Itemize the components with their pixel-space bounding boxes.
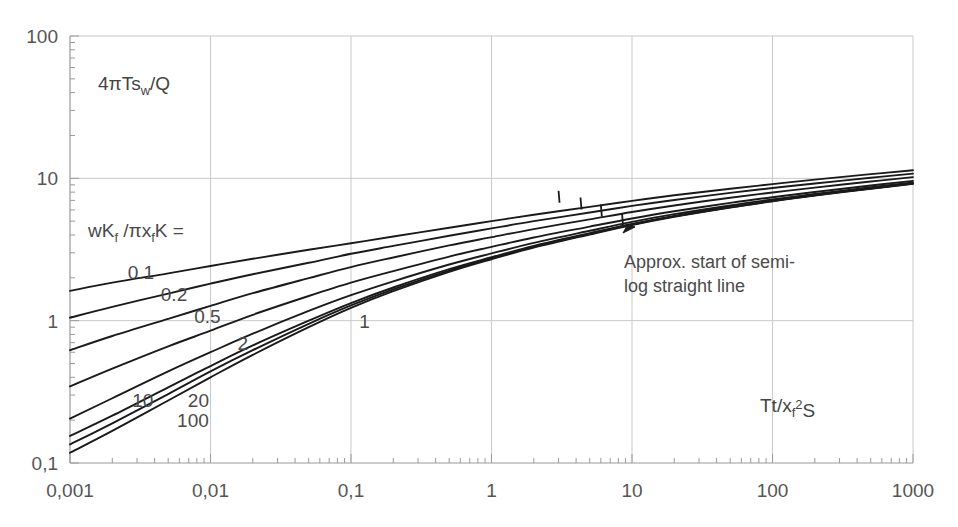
curve-label-100: 100 — [177, 410, 209, 431]
semilog-start-marker — [601, 204, 602, 216]
y-tick-label: 100 — [26, 26, 58, 47]
curve-label-1: 1 — [359, 311, 370, 332]
semilog-start-marker — [581, 197, 582, 209]
annotation-line-1: Approx. start of semi- — [624, 252, 795, 272]
curve-label-2: 2 — [238, 333, 249, 354]
x-tick-label: 10 — [621, 480, 642, 501]
x-tick-label: 1 — [486, 480, 497, 501]
semilog-start-marker — [559, 191, 560, 203]
curve-label-20: 20 — [188, 390, 209, 411]
y-tick-label: 0,1 — [32, 453, 58, 474]
curve-label-10: 10 — [132, 390, 153, 411]
curve-label-0-2: 0.2 — [161, 284, 187, 305]
chart-figure: 0,0010,010,11101001000 0,1110100 0.10.20… — [0, 0, 958, 527]
annotation-line-2: log straight line — [624, 276, 745, 296]
x-tick-label: 1000 — [892, 480, 934, 501]
x-tick-label: 0,1 — [338, 480, 364, 501]
y-tick-label: 10 — [37, 168, 58, 189]
x-tick-label: 0,001 — [46, 480, 94, 501]
y-tick-label: 1 — [47, 311, 58, 332]
x-tick-label: 100 — [757, 480, 789, 501]
x-tick-label: 0,01 — [192, 480, 229, 501]
curve-label-0-1: 0.1 — [128, 262, 154, 283]
curve-label-0-5: 0.5 — [194, 306, 220, 327]
log-log-chart: 0,0010,010,11101001000 0,1110100 0.10.20… — [0, 0, 958, 527]
semilog-start-marker — [622, 214, 623, 226]
